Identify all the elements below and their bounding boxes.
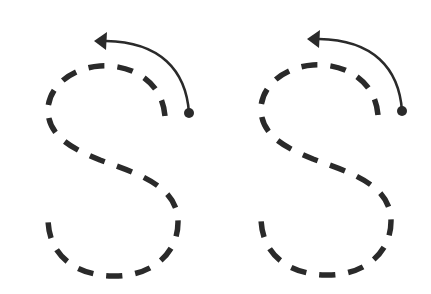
arrowhead-icon bbox=[307, 30, 320, 48]
tracing-worksheet: S S bbox=[0, 0, 431, 294]
start-dot-icon bbox=[397, 106, 407, 116]
dashed-s-stroke bbox=[48, 66, 178, 276]
dashed-s-stroke bbox=[261, 65, 391, 275]
start-dot-icon bbox=[184, 108, 194, 118]
tracing-letter-s-left: S bbox=[0, 0, 215, 294]
tracing-letter-s-right: S bbox=[213, 0, 428, 294]
arrowhead-icon bbox=[94, 32, 107, 50]
direction-arrow-icon bbox=[319, 39, 402, 111]
